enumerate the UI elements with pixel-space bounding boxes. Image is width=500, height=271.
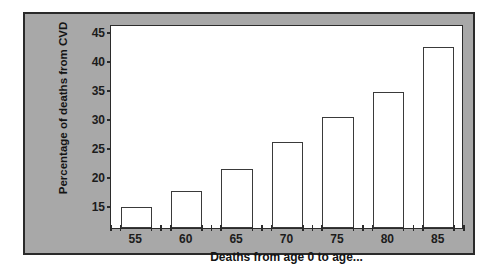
- bar: [373, 92, 404, 228]
- bar: [272, 142, 303, 228]
- bar: [171, 191, 202, 228]
- y-axis-tick-label: 45: [79, 27, 105, 39]
- x-axis-tick-mark: [120, 225, 122, 231]
- x-axis-tick-mark: [321, 225, 323, 231]
- bar: [322, 117, 353, 228]
- x-axis-tick-mark: [201, 225, 203, 231]
- x-axis-tick-label: 70: [267, 232, 307, 246]
- x-axis-tick-mark: [302, 225, 304, 231]
- bar: [221, 169, 252, 228]
- bar: [121, 207, 152, 228]
- x-axis-tick-label: 60: [166, 232, 206, 246]
- x-axis-tick-label: 65: [216, 232, 256, 246]
- y-axis-tick-label: 25: [79, 143, 105, 155]
- chart-panel: Percentage of deaths from CVD 1520253035…: [23, 12, 475, 255]
- x-axis-tick-mark: [160, 225, 162, 231]
- x-axis-tick-mark: [463, 225, 465, 231]
- y-axis-tick-label: 35: [79, 85, 105, 97]
- x-axis-tick-mark: [170, 225, 172, 231]
- x-axis-tick-mark: [422, 225, 424, 231]
- x-axis-tick-mark: [403, 225, 405, 231]
- x-axis-tick-mark: [353, 225, 355, 231]
- y-axis-title: Percentage of deaths from CVD: [57, 8, 69, 208]
- chart-figure: Percentage of deaths from CVD 1520253035…: [0, 0, 500, 271]
- x-axis-tick-mark: [110, 225, 112, 231]
- bar: [423, 47, 454, 228]
- x-axis-tick-mark: [220, 225, 222, 231]
- y-axis-tick-label: 30: [79, 114, 105, 126]
- x-axis-tick-mark: [271, 225, 273, 231]
- y-axis-tick-label: 15: [79, 201, 105, 213]
- x-axis-tick-mark: [261, 225, 263, 231]
- x-axis-tick-mark: [252, 225, 254, 231]
- y-axis-tick-label: 20: [79, 172, 105, 184]
- x-axis-tick-mark: [211, 225, 213, 231]
- x-axis-tick-mark: [372, 225, 374, 231]
- y-axis-tick-label: 40: [79, 56, 105, 68]
- x-axis-tick-mark: [362, 225, 364, 231]
- x-axis-ticks: 55606570758085: [110, 232, 463, 250]
- y-axis-ticks: 15202530354045: [75, 25, 105, 229]
- plot-area: [110, 25, 463, 229]
- x-axis-tick-mark: [413, 225, 415, 231]
- x-axis-title: Deaths from age 0 to age...: [110, 250, 463, 264]
- x-axis-tick-label: 75: [317, 232, 357, 246]
- bars-layer: [111, 26, 462, 228]
- x-axis-tick-label: 85: [418, 232, 458, 246]
- x-axis-tick-mark: [151, 225, 153, 231]
- x-axis-tick-label: 80: [367, 232, 407, 246]
- x-axis-tick-mark: [453, 225, 455, 231]
- x-axis-tick-mark: [312, 225, 314, 231]
- x-axis-tick-label: 55: [115, 232, 155, 246]
